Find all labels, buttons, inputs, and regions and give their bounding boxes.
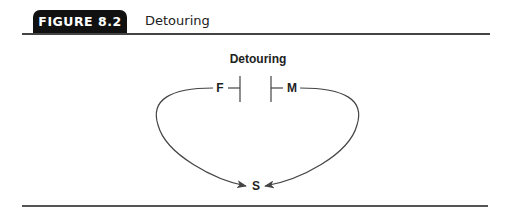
diagram-title: Detouring: [230, 52, 287, 66]
node-f-label: F: [216, 81, 223, 95]
node-m-label: M: [287, 81, 297, 95]
arrow-f-to-s: [156, 88, 246, 186]
arrow-m-to-s: [265, 88, 359, 186]
footer-rule: [22, 205, 488, 207]
node-s-label: S: [252, 179, 260, 193]
detouring-diagram: Detouring F M S: [0, 0, 517, 210]
